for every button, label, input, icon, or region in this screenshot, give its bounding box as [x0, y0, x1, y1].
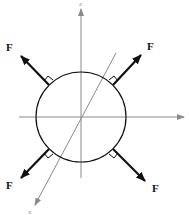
force-diagram: z x F F F F	[0, 0, 189, 215]
force-label: F	[6, 41, 13, 53]
force-label: F	[152, 182, 159, 194]
diagonal-axis	[35, 53, 116, 205]
force-lower-right: F	[109, 149, 159, 194]
vertical-axis-label: z	[79, 0, 82, 8]
force-upper-left: F	[6, 41, 53, 85]
force-label: F	[6, 179, 13, 191]
force-label: F	[147, 40, 154, 52]
force-upper-right: F	[109, 40, 154, 85]
diagonal-axis-label: x	[28, 208, 32, 215]
